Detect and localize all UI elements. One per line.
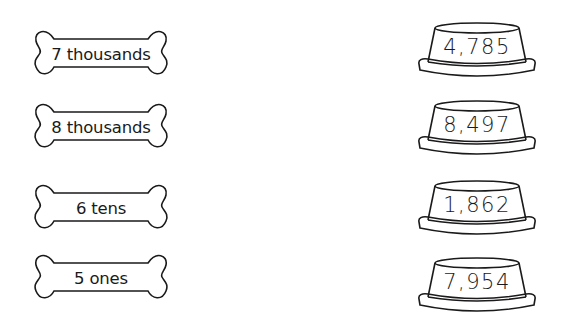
dog-bowl-2[interactable]: 8,497 — [414, 98, 540, 158]
bowl-number: 8,497 — [436, 112, 518, 138]
bone-label: 8 thousands — [32, 100, 170, 152]
bone-label: 7 thousands — [32, 27, 170, 79]
bone-card-3[interactable]: 6 tens — [32, 181, 170, 233]
bowl-number: 1,862 — [436, 192, 518, 218]
dog-bowl-4[interactable]: 7,954 — [414, 255, 540, 315]
bone-card-2[interactable]: 8 thousands — [32, 100, 170, 152]
bowl-number: 4,785 — [436, 34, 518, 60]
dog-bowl-1[interactable]: 4,785 — [414, 20, 540, 80]
bone-card-1[interactable]: 7 thousands — [32, 27, 170, 79]
bone-card-4[interactable]: 5 ones — [32, 251, 170, 303]
bowl-number: 7,954 — [436, 269, 518, 295]
dog-bowl-3[interactable]: 1,862 — [414, 178, 540, 238]
bone-label: 5 ones — [32, 251, 170, 303]
bone-label: 6 tens — [32, 181, 170, 233]
